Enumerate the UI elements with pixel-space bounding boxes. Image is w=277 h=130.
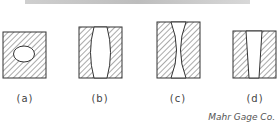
panel-a-label: (a) bbox=[17, 93, 34, 104]
panel-d-label: (d) bbox=[246, 93, 263, 104]
bore-shapes-diagram bbox=[0, 0, 277, 130]
panel-b-label: (b) bbox=[91, 93, 108, 104]
panel-c-label: (c) bbox=[170, 93, 186, 104]
figure-credit: Mahr Gage Co. bbox=[208, 112, 275, 122]
panel-c-shape bbox=[157, 22, 200, 78]
panel-d-shape bbox=[233, 31, 276, 78]
panel-a-shape bbox=[3, 32, 46, 78]
panel-b-shape bbox=[79, 27, 122, 78]
